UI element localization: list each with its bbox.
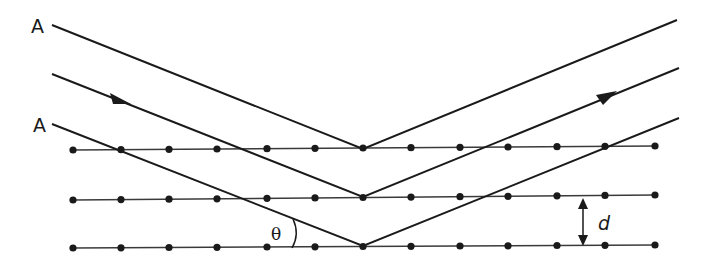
bragg-diagram: θ d A A (0, 0, 711, 276)
ray-1 (52, 20, 677, 149)
lattice-atom (213, 244, 220, 251)
lattice-atom (311, 145, 318, 152)
direction-arrows (110, 91, 617, 105)
theta-label: θ (271, 224, 281, 244)
lattice-atom (213, 145, 220, 152)
spacing-label: d (598, 212, 611, 234)
lattice-atom (213, 195, 220, 202)
x-ray-beams (52, 20, 679, 246)
lattice-atom (553, 192, 560, 199)
spacing-arrow (578, 198, 588, 246)
lattice-atom (504, 143, 511, 150)
lattice-atom (651, 142, 658, 149)
ray-3 (52, 118, 679, 246)
lattice-atom (456, 193, 463, 200)
lattice-atom (504, 193, 511, 200)
lattice-atom (651, 241, 658, 248)
lattice-atom (407, 194, 414, 201)
up-arrow-icon (578, 198, 588, 209)
lattice-atom (651, 191, 658, 198)
lattice-atom (456, 144, 463, 151)
lattice-atom (263, 243, 270, 250)
lattice-atom (69, 244, 76, 251)
ray-2 (52, 68, 679, 197)
lattice-atom (117, 196, 124, 203)
lattice-atom (69, 146, 76, 153)
lattice-atom (165, 244, 172, 251)
lattice-atom (553, 143, 560, 150)
lattice-atom (504, 242, 511, 249)
lattice-atom (553, 242, 560, 249)
ray-label-a-top: A (31, 15, 44, 37)
lattice-atom (165, 196, 172, 203)
lattice-atom (456, 242, 463, 249)
lattice-atom (117, 244, 124, 251)
lattice-atom (165, 146, 172, 153)
lattice-atom (69, 196, 76, 203)
theta-angle-arc (292, 219, 296, 248)
lattice-atom (311, 194, 318, 201)
lattice-atom (407, 144, 414, 151)
lattice-atom (601, 192, 608, 199)
lattice-atom (407, 243, 414, 250)
ray-label-a-bottom: A (33, 114, 46, 136)
reflected-arrow-icon (596, 91, 617, 105)
incident-arrow-icon (110, 93, 131, 104)
lattice-atom (311, 243, 318, 250)
lattice-atom (263, 145, 270, 152)
down-arrow-icon (578, 235, 588, 246)
lattice-atom (601, 242, 608, 249)
lattice-atom (263, 195, 270, 202)
